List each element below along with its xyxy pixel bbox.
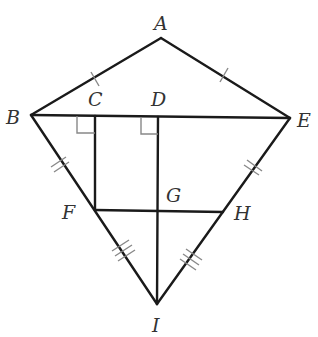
right-angle-mark-C xyxy=(77,116,95,133)
label-I: I xyxy=(151,314,160,336)
label-A: A xyxy=(152,12,168,34)
segment-AE xyxy=(161,38,290,118)
label-H: H xyxy=(233,202,251,224)
segment-BE xyxy=(31,115,290,118)
label-G: G xyxy=(166,184,181,206)
label-B: B xyxy=(5,106,20,128)
label-E: E xyxy=(296,109,311,131)
label-F: F xyxy=(61,201,76,223)
segment-FH xyxy=(95,210,223,212)
label-C: C xyxy=(88,88,103,110)
kite-diagram: A B C D E F G H I xyxy=(0,0,318,337)
label-D: D xyxy=(150,88,166,110)
right-angle-mark-D xyxy=(141,117,158,134)
